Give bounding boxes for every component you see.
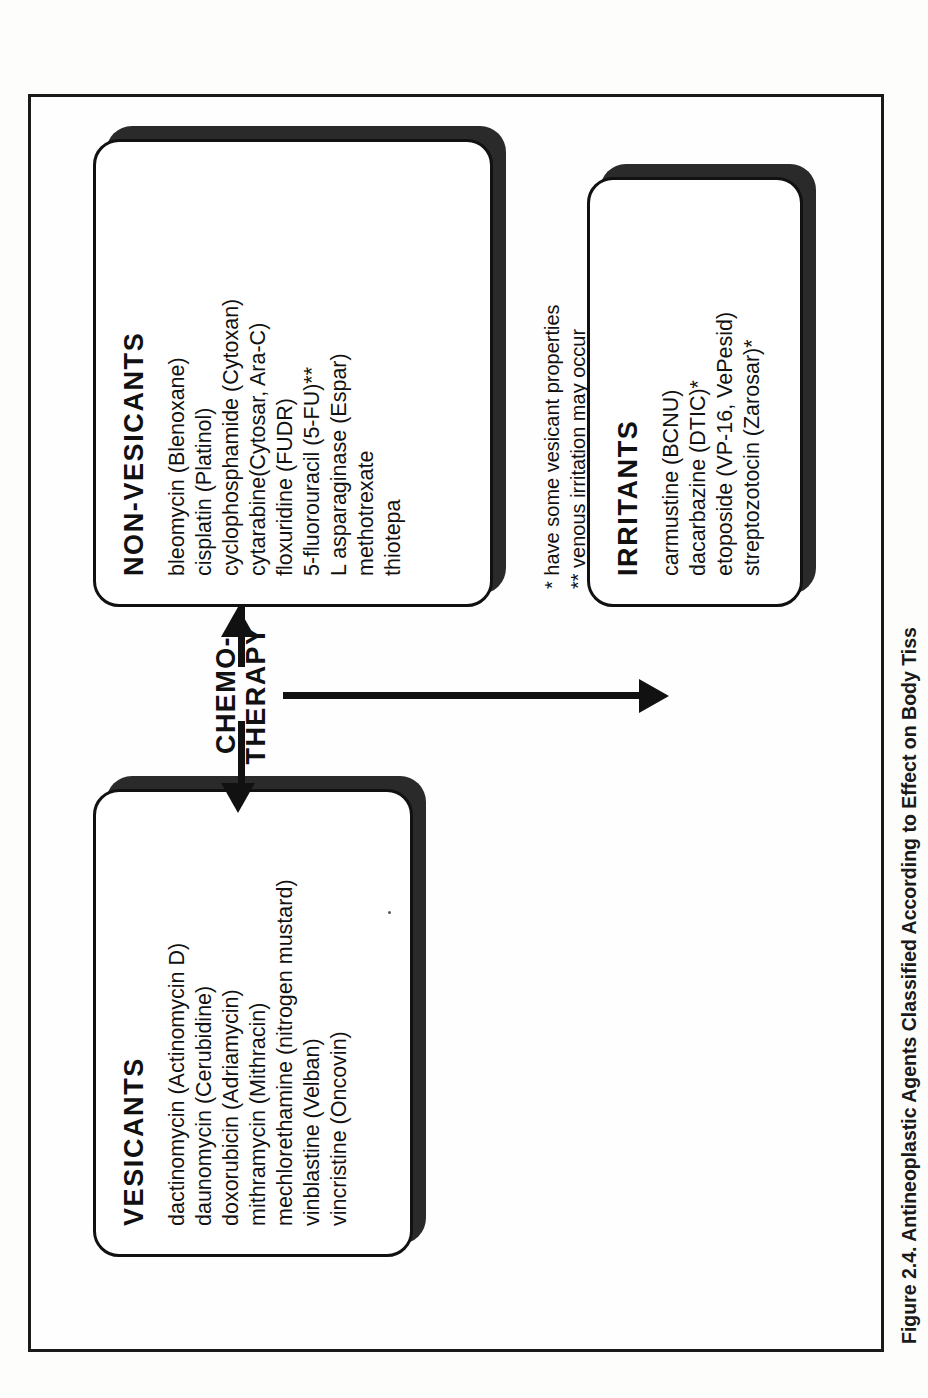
list-item: daunomycin (Cerubidine) [191, 808, 218, 1226]
non-vesicants-box: NON-VESICANTS bleomycin (Blenoxane) cisp… [93, 139, 493, 607]
figure-caption: Figure 2.4. Antineoplastic Agents Classi… [898, 627, 921, 1344]
vesicants-box-content: VESICANTS dactinomycin (Actinomycin D) d… [120, 808, 353, 1226]
figure-frame: VESICANTS dactinomycin (Actinomycin D) d… [28, 94, 884, 1352]
list-item: mithramycin (Mithracin) [245, 808, 272, 1226]
rotated-scan-canvas: VESICANTS dactinomycin (Actinomycin D) d… [0, 0, 928, 1398]
list-item: cytarabine(Cytosar, Ara-C) [245, 158, 272, 576]
non-vesicants-title: NON-VESICANTS [120, 158, 148, 576]
list-item: doxorubicin (Adriamycin) [218, 808, 245, 1226]
list-item: thiotepa [380, 158, 407, 576]
non-vesicants-box-content: NON-VESICANTS bleomycin (Blenoxane) cisp… [120, 158, 407, 576]
non-vesicants-list: bleomycin (Blenoxane) cisplatin (Platino… [164, 158, 407, 576]
footnote-double-asterisk: ** venous irritation may occur [565, 304, 591, 589]
irritants-box: IRRITANTS carmustine (BCNU) dacarbazine … [587, 177, 803, 607]
list-item: methotrexate [353, 158, 380, 576]
arrow-down-icon [639, 679, 669, 713]
list-item: cyclophosphamide (Cytoxan) [218, 158, 245, 576]
irritants-box-content: IRRITANTS carmustine (BCNU) dacarbazine … [614, 196, 766, 576]
list-item: vinblastine (Velban) [299, 808, 326, 1226]
footnotes: * have some vesicant properties ** venou… [539, 304, 591, 589]
irritants-list: carmustine (BCNU) dacarbazine (DTIC)* et… [658, 196, 766, 576]
vesicants-title: VESICANTS [120, 808, 148, 1226]
list-item: etoposide (VP-16, VePesid) [712, 196, 739, 576]
arrow-to-irritants-shaft [283, 692, 643, 699]
arrow-left-icon [221, 783, 255, 813]
list-item: L asparaginase (Espar) [326, 158, 353, 576]
list-item: dactinomycin (Actinomycin D) [164, 808, 191, 1226]
list-item: streptozotocin (Zarosar)* [739, 196, 766, 576]
irritants-title: IRRITANTS [614, 196, 642, 576]
list-item: dacarbazine (DTIC)* [685, 196, 712, 576]
list-item: cisplatin (Platinol) [191, 158, 218, 576]
list-item: floxuridine (FUDR) [272, 158, 299, 576]
vesicants-box: VESICANTS dactinomycin (Actinomycin D) d… [93, 789, 413, 1257]
footnote-single-asterisk: * have some vesicant properties [539, 304, 565, 589]
list-item: vincristine (Oncovin) [326, 808, 353, 1226]
list-item: bleomycin (Blenoxane) [164, 158, 191, 576]
list-item: mechlorethamine (nitrogen mustard) [272, 808, 299, 1226]
arrow-to-vesicants-shaft [238, 721, 245, 783]
list-item: carmustine (BCNU) [658, 196, 685, 576]
figure-page: VESICANTS dactinomycin (Actinomycin D) d… [0, 0, 928, 1398]
arrow-right-icon [221, 607, 255, 637]
vesicants-list: dactinomycin (Actinomycin D) daunomycin … [164, 808, 353, 1226]
scan-speck [388, 911, 391, 914]
list-item: 5-fluorouracil (5-FU)** [299, 158, 326, 576]
